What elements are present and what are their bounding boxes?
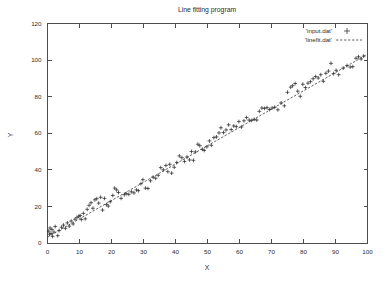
y-axis-title: Y [7,132,14,137]
x-tick-label: 30 [140,248,147,255]
x-tick-label: 0 [46,248,50,255]
data-point [85,207,89,211]
data-point [113,186,117,190]
x-axis-title: X [205,264,210,271]
data-point [161,168,165,172]
data-point [159,166,163,170]
data-point [224,128,228,132]
data-point [135,188,139,192]
data-point [286,90,290,94]
data-point [57,229,61,233]
data-point [232,124,236,128]
data-point [351,65,355,69]
data-point [53,225,57,229]
data-point [180,156,184,160]
data-point [149,179,153,183]
y-tick-label: 0 [38,239,42,246]
data-point [71,222,75,226]
data-point [119,196,123,200]
y-tick-label: 100 [31,56,42,63]
y-tick-label: 60 [35,129,42,136]
chart-canvas: Line fitting program 0102030405060708090… [0,0,388,282]
data-point [115,188,119,192]
y-tick-label: 20 [35,203,42,210]
data-point [69,219,73,223]
data-point [212,136,216,140]
data-point [293,82,297,86]
data-point [166,170,170,174]
data-point [87,203,91,207]
data-point [229,128,233,132]
data-point [296,89,300,93]
data-point [319,73,323,77]
plot-frame [48,24,368,244]
x-tick-label: 70 [268,248,275,255]
data-point [103,196,107,200]
data-point [172,165,176,169]
data-point [234,125,238,129]
legend-marker-plus-icon [344,28,350,34]
data-point [56,234,60,238]
data-point [337,73,341,77]
data-point [127,192,131,196]
data-point [185,155,189,159]
data-point [89,201,93,205]
data-point [359,57,363,61]
data-point [263,106,267,110]
data-point [329,61,333,65]
data-point [257,109,261,113]
data-point [273,105,277,109]
data-point [164,164,168,168]
chart-container: Line fitting program 0102030405060708090… [0,0,388,282]
x-axis-tick-labels: 0102030405060708090100 [46,248,373,255]
x-axis-ticks [48,24,368,244]
x-tick-label: 100 [362,248,373,255]
fit-line-linefit-dat [48,54,368,237]
data-point [242,119,246,123]
data-point [156,173,160,177]
data-point [276,108,280,112]
data-point [91,206,95,210]
data-point [81,211,85,215]
data-point [341,66,345,70]
data-point [168,162,172,166]
data-point [188,158,192,162]
scatter-series-input-dat [47,54,366,238]
data-point [141,178,145,182]
data-point [282,104,286,108]
data-point [237,120,241,124]
x-tick-label: 50 [204,248,211,255]
x-tick-label: 90 [332,248,339,255]
legend: 'input.dat' 'linefit.dat' [305,27,362,43]
data-point [190,150,194,154]
data-point [332,72,336,76]
data-point [62,223,66,227]
data-point [97,201,101,205]
data-point [265,106,269,110]
data-point [215,135,219,139]
data-point [101,208,105,212]
data-point [301,82,305,86]
data-point [298,94,302,98]
data-point [327,69,331,73]
data-point [324,71,328,75]
data-point [245,116,249,120]
data-point [99,195,103,199]
data-point [217,131,221,135]
data-point [64,226,68,230]
data-point [304,86,308,90]
data-point [111,194,115,198]
data-point [192,158,196,162]
data-point [227,123,231,127]
y-tick-label: 120 [31,20,42,27]
data-point [136,189,140,193]
data-point [362,54,366,58]
data-point [117,191,121,195]
chart-title: Line fitting program [178,6,237,14]
y-tick-label: 80 [35,93,42,100]
x-tick-label: 60 [236,248,243,255]
data-point [219,126,223,130]
x-tick-label: 20 [108,248,115,255]
data-point [222,131,226,135]
data-point [175,161,179,165]
